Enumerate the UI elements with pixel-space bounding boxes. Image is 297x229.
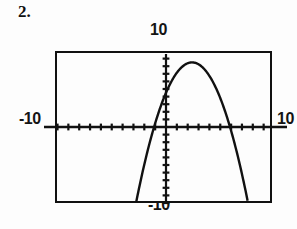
problem-number: 2. — [18, 2, 31, 22]
calculator-screen — [55, 51, 272, 203]
plot-canvas — [43, 51, 288, 207]
graph-screenshot: 2. 10 -10 -10 10 — [0, 0, 297, 229]
y-max-label: 10 — [150, 21, 167, 39]
plot-area — [57, 53, 270, 201]
axes-group — [44, 54, 287, 204]
parabola-curve — [136, 62, 247, 201]
x-min-label: -10 — [19, 110, 41, 128]
